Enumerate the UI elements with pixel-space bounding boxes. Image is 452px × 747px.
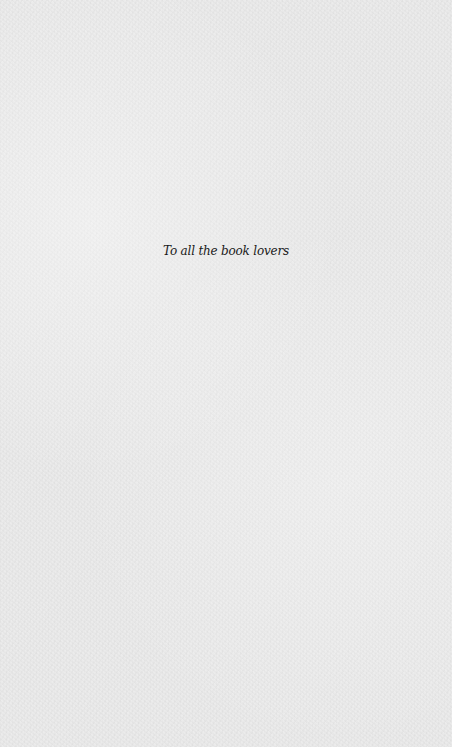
- book-page: To all the book lovers: [0, 0, 452, 747]
- dedication-text: To all the book lovers: [0, 243, 452, 259]
